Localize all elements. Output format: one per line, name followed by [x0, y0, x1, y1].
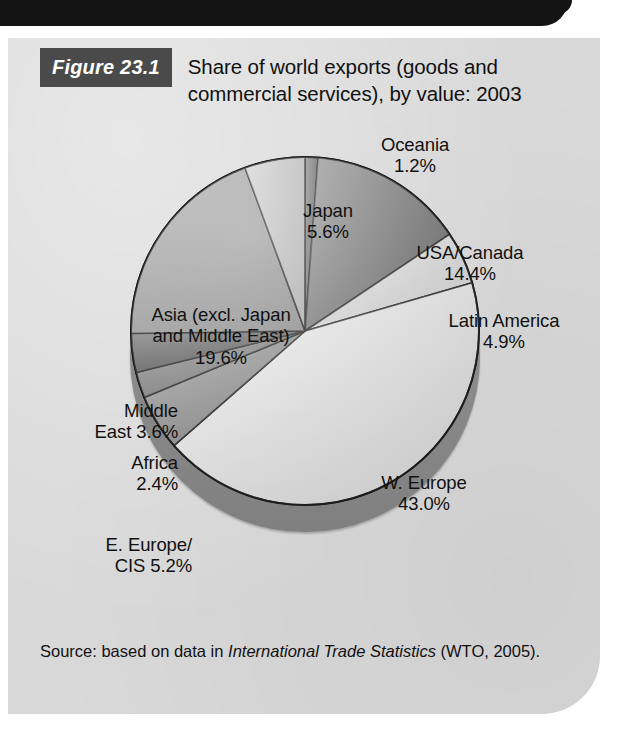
slice-label-japan: Japan 5.6% [276, 200, 380, 243]
page-top-band-tail [538, 0, 572, 14]
slice-label-middle-east: Middle East 3.6% [10, 400, 178, 443]
slice-label-africa: Africa 2.4% [36, 452, 178, 495]
figure-header: Figure 23.1 Share of world exports (good… [40, 48, 576, 132]
slice-label-usa-canada: USA/Canada 14.4% [386, 242, 554, 285]
source-note: Source: based on data in International T… [40, 640, 560, 662]
slice-label-e-europe-cis: E. Europe/ CIS 5.2% [14, 534, 192, 577]
figure-title: Share of world exports (goods and commer… [188, 48, 576, 107]
pie-chart: Oceania 1.2% Japan 5.6% USA/Canada 14.4%… [8, 134, 600, 654]
slice-label-asia: Asia (excl. Japan and Middle East) 19.6% [112, 304, 330, 368]
source-prefix: Source: based on data in [40, 642, 228, 660]
source-publication-title: International Trade Statistics [228, 642, 436, 660]
slice-label-oceania: Oceania 1.2% [340, 134, 490, 177]
slice-label-latin-america: Latin America 4.9% [406, 310, 602, 353]
slice-label-w-europe: W. Europe 43.0% [336, 472, 512, 515]
source-suffix: (WTO, 2005). [436, 642, 540, 660]
figure-panel: Figure 23.1 Share of world exports (good… [8, 38, 600, 714]
figure-number-badge: Figure 23.1 [40, 48, 172, 87]
page-top-band [0, 0, 568, 26]
